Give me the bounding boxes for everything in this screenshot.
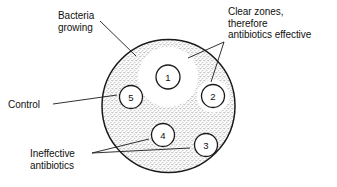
antibiotic-disc-4: 4 (152, 124, 175, 147)
control-disc-5: 5 (120, 86, 143, 109)
antibiotic-disc-2: 2 (202, 85, 225, 108)
disc-5-label: 5 (128, 92, 133, 103)
disc-3-label: 3 (203, 140, 208, 151)
disc-1-label: 1 (165, 72, 170, 83)
petri-dish-diagram: 1 2 3 4 5 Bacteria growing Clear zones, … (0, 0, 337, 187)
disc-4-label: 4 (160, 130, 165, 141)
disc-2-label: 2 (210, 91, 215, 102)
label-bacteria-growing: Bacteria growing (58, 10, 94, 33)
antibiotic-disc-1: 1 (156, 65, 180, 89)
label-ineffective-antibiotics: Ineffective antibiotics (30, 148, 75, 171)
antibiotic-disc-3: 3 (195, 134, 218, 157)
label-control: Control (8, 99, 40, 111)
leader-bacteria-growing (100, 21, 136, 56)
label-clear-zones: Clear zones, therefore antibiotics effec… (228, 6, 311, 41)
